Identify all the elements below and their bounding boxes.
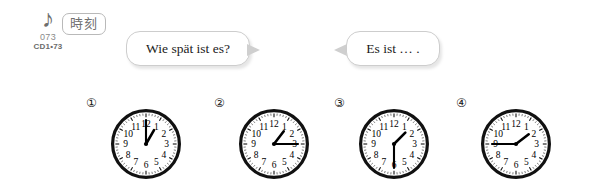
svg-text:7: 7 — [503, 157, 508, 167]
svg-text:7: 7 — [261, 157, 266, 167]
audio-cd-label: CD1•73 — [24, 42, 72, 51]
svg-text:3: 3 — [164, 139, 169, 149]
svg-text:8: 8 — [126, 150, 131, 160]
svg-text:2: 2 — [531, 129, 536, 139]
svg-text:1: 1 — [524, 122, 529, 132]
clock-item-2: ② 121234567891011 — [214, 96, 334, 192]
svg-text:4: 4 — [289, 150, 294, 160]
svg-text:5: 5 — [524, 157, 529, 167]
clock-index-1: ① — [86, 96, 97, 110]
svg-text:6: 6 — [272, 160, 277, 170]
clock-index-2: ② — [214, 96, 225, 110]
svg-text:11: 11 — [259, 122, 268, 132]
clock-face-3: 121234567891011 — [356, 106, 432, 186]
svg-text:11: 11 — [131, 122, 140, 132]
svg-text:8: 8 — [254, 150, 259, 160]
svg-text:1: 1 — [282, 122, 287, 132]
speech-bubble-question-text: Wie spät ist es? — [146, 41, 230, 57]
speech-bubble-answer: Es ist … . — [346, 31, 440, 66]
svg-text:12: 12 — [389, 119, 399, 129]
svg-text:4: 4 — [409, 150, 414, 160]
svg-text:9: 9 — [123, 139, 128, 149]
topic-badge: 時刻 — [62, 13, 106, 35]
clock-index-4: ④ — [456, 96, 467, 110]
speech-bubble-answer-text: Es ist … . — [366, 41, 419, 57]
svg-text:5: 5 — [282, 157, 287, 167]
svg-text:3: 3 — [412, 139, 417, 149]
svg-text:11: 11 — [379, 122, 388, 132]
svg-text:8: 8 — [374, 150, 379, 160]
svg-text:2: 2 — [161, 129, 166, 139]
speech-bubble-question-tail — [247, 44, 260, 56]
svg-text:2: 2 — [289, 129, 294, 139]
clock-face-4: 121234567891011 — [478, 106, 554, 186]
clock-item-4: ④ 121234567891011 — [456, 96, 576, 192]
svg-text:12: 12 — [511, 119, 521, 129]
svg-text:11: 11 — [501, 122, 510, 132]
speech-bubble-question: Wie spät ist es? — [126, 31, 250, 66]
svg-text:6: 6 — [144, 160, 149, 170]
clock-item-3: ③ 121234567891011 — [334, 96, 454, 192]
svg-text:12: 12 — [269, 119, 279, 129]
clock-index-3: ③ — [334, 96, 345, 110]
svg-text:1: 1 — [402, 122, 407, 132]
svg-text:9: 9 — [371, 139, 376, 149]
clock-item-1: ① 121234567891011 — [86, 96, 206, 192]
svg-text:9: 9 — [251, 139, 256, 149]
svg-text:8: 8 — [496, 150, 501, 160]
svg-text:3: 3 — [534, 139, 539, 149]
svg-text:5: 5 — [402, 157, 407, 167]
svg-text:2: 2 — [409, 129, 414, 139]
clock-face-2: 121234567891011 — [236, 106, 312, 186]
clock-face-1: 121234567891011 — [108, 106, 184, 186]
svg-text:7: 7 — [133, 157, 138, 167]
svg-text:4: 4 — [161, 150, 166, 160]
svg-text:7: 7 — [381, 157, 386, 167]
svg-text:5: 5 — [154, 157, 159, 167]
svg-text:4: 4 — [531, 150, 536, 160]
worksheet-page: ♪ 073 CD1•73 時刻 Wie spät ist es? Es ist … — [0, 0, 594, 195]
svg-text:6: 6 — [514, 160, 519, 170]
